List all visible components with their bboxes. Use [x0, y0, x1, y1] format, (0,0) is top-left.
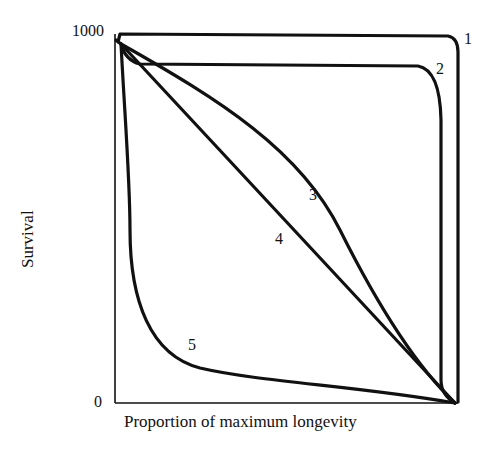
curve-label-5: 5 [188, 336, 196, 354]
y-tick-1000: 1000 [72, 22, 104, 40]
x-axis-label: Proportion of maximum longevity [124, 412, 357, 432]
curve-5-initial [116, 40, 121, 44]
curve-label-3: 3 [309, 186, 317, 204]
survivorship-chart [0, 0, 492, 454]
y-axis-label: Survival [18, 210, 38, 268]
curve-label-1: 1 [464, 30, 472, 48]
curve-label-2: 2 [436, 60, 444, 78]
curve-4 [121, 44, 455, 403]
curve-label-4: 4 [275, 230, 283, 248]
y-tick-0: 0 [94, 393, 102, 411]
